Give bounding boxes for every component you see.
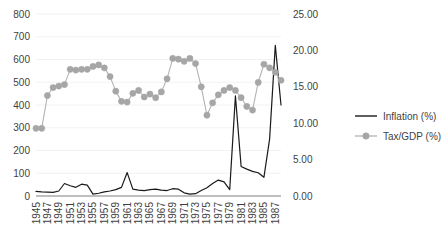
data-point-marker [153,95,159,101]
left-axis-tick-label: 600 [13,54,30,65]
chart-container: 0100200300400500600700800 0.005.0010.001… [0,0,442,250]
x-axis-tick-label: 1983 [247,202,258,225]
x-axis-tick-label: 1967 [156,202,167,225]
data-point-marker [249,107,255,113]
x-axis-tick-label: 1981 [236,202,247,225]
data-point-marker [101,65,107,71]
data-point-marker [175,56,181,62]
x-axis-tick-label: 1953 [76,202,87,225]
left-axis-tick-label: 100 [13,168,30,179]
data-point-marker [90,63,96,69]
dual-axis-line-chart: 0100200300400500600700800 0.005.0010.001… [0,0,442,250]
legend-item-label: Tax/GDP (%) [383,131,441,142]
x-axis-tick-labels: 1945194719491951195319551957195919611963… [31,202,281,225]
data-point-marker [124,99,130,105]
data-point-marker [44,92,50,98]
data-point-marker [56,83,62,89]
left-axis-tick-label: 300 [13,122,30,133]
data-point-marker [158,89,164,95]
legend-item-label: Inflation (%) [383,111,436,122]
data-point-marker [227,84,233,90]
data-point-marker [50,84,56,90]
x-axis-tick-label: 1977 [213,202,224,225]
x-axis-tick-label: 1965 [144,202,155,225]
data-point-marker [113,88,119,94]
x-axis-tick-label: 1973 [190,202,201,225]
chart-legend: Inflation (%)Tax/GDP (%) [355,111,441,142]
x-axis-tick-label: 1969 [167,202,178,225]
data-point-marker [118,98,124,104]
x-axis-tick-label: 1945 [31,202,42,225]
right-axis-tick-label: 20.00 [293,45,318,56]
data-point-marker [170,55,176,61]
x-axis-tick-label: 1959 [110,202,121,225]
left-axis-tick-label: 0 [24,191,30,202]
x-axis-tick-label: 1975 [201,202,212,225]
x-axis-tick-label: 1971 [179,202,190,225]
left-axis-tick-label: 400 [13,100,30,111]
right-axis-tick-label: 10.00 [293,118,318,129]
x-axis-tick-label: 1985 [258,202,269,225]
data-point-marker [84,66,90,72]
right-axis-tick-label: 5.00 [293,154,313,165]
data-point-marker [198,84,204,90]
data-point-marker [267,65,273,71]
x-axis-tick-label: 1961 [122,202,133,225]
x-axis-tick-label: 1951 [65,202,76,225]
data-point-marker [147,91,153,97]
data-point-marker [210,100,216,106]
data-point-marker [181,58,187,64]
data-point-marker [204,112,210,118]
data-point-marker [33,125,39,131]
data-point-marker [238,95,244,101]
data-point-marker [73,67,79,73]
x-axis-tick-label: 1949 [53,202,64,225]
data-point-marker [78,66,84,72]
data-point-marker [164,76,170,82]
data-point-marker [261,61,267,67]
right-axis-tick-labels: 0.005.0010.0015.0020.0025.00 [293,9,318,202]
right-axis-tick-label: 25.00 [293,9,318,20]
data-point-marker [232,87,238,93]
left-axis-tick-label: 200 [13,145,30,156]
data-series-layer [33,45,284,194]
data-point-marker [135,87,141,93]
data-point-marker [192,60,198,66]
x-axis-tick-label: 1957 [99,202,110,225]
x-axis-tick-label: 1987 [270,202,281,225]
right-axis-tick-label: 0.00 [293,191,313,202]
data-point-marker [141,94,147,100]
legend-swatch-marker [363,133,369,139]
x-axis-tick-label: 1947 [42,202,53,225]
x-axis-tick-label: 1955 [87,202,98,225]
data-point-marker [215,92,221,98]
left-axis-tick-labels: 0100200300400500600700800 [13,9,30,202]
data-point-marker [67,66,73,72]
data-point-marker [61,82,67,88]
data-point-marker [272,69,278,75]
data-point-marker [187,55,193,61]
data-point-marker [130,90,136,96]
data-point-marker [244,103,250,109]
x-axis-tick-label: 1979 [224,202,235,225]
left-axis-tick-label: 700 [13,31,30,42]
left-axis-tick-label: 800 [13,9,30,20]
left-axis-tick-label: 500 [13,77,30,88]
data-point-marker [96,62,102,68]
data-point-marker [39,125,45,131]
right-axis-tick-label: 15.00 [293,81,318,92]
data-point-marker [278,77,284,83]
data-point-marker [107,74,113,80]
data-point-marker [255,79,261,85]
x-axis-tick-label: 1963 [133,202,144,225]
data-point-marker [221,87,227,93]
